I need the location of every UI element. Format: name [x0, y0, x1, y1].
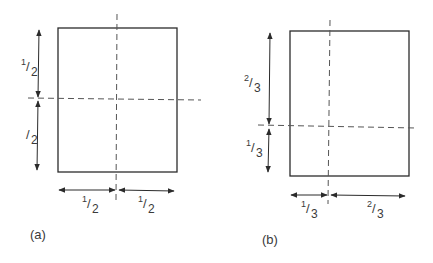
panel-b-top-dimension-arrow [269, 33, 270, 124]
diagram-canvas [0, 0, 433, 263]
panel-a-right-dimension-arrow [119, 190, 174, 191]
denominator: 2 [31, 134, 38, 146]
fraction-slash: / [306, 202, 310, 215]
denominator: 2 [92, 203, 99, 215]
panel-b-caption: (b) [262, 233, 278, 246]
panel-a [28, 14, 201, 202]
denominator: 2 [31, 66, 38, 78]
denominator: 3 [311, 208, 318, 220]
fraction-slash: / [251, 141, 255, 154]
panel-a-top-dimension-arrow [38, 30, 39, 97]
denominator: 3 [254, 82, 261, 94]
denominator: 2 [148, 203, 155, 215]
fraction-slash: / [372, 202, 376, 215]
panel-a-caption: (a) [30, 228, 46, 241]
panel-b-right-dimension-arrow [331, 195, 405, 196]
fraction-slash: / [26, 60, 30, 73]
panel-a-horizontal-centerline [28, 98, 201, 100]
panel-a-vertical-centerline [116, 14, 117, 202]
fraction-slash: / [26, 128, 30, 141]
panel-b [258, 20, 416, 204]
fraction-slash: / [87, 197, 91, 210]
fraction-slash: / [143, 197, 147, 210]
panel-b-rectangle [290, 31, 409, 176]
panel-b-horizontal-centerline [258, 125, 416, 128]
denominator: 3 [256, 147, 263, 159]
fraction-slash: / [249, 76, 253, 89]
denominator: 3 [377, 208, 384, 220]
panel-b-bottom-dimension-arrow [268, 129, 269, 172]
